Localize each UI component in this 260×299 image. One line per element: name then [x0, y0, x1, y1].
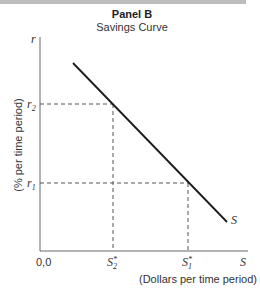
dashed-guides [40, 104, 188, 251]
savings-curve-diagram: Panel B Savings Curve r (% per time peri… [0, 0, 260, 299]
panel-subtitle: Savings Curve [96, 21, 168, 33]
curve-label: S [231, 213, 237, 227]
origin-label: 0,0 [36, 256, 51, 268]
tick-r1: r1 [27, 176, 36, 192]
y-axis-symbol: r [31, 32, 36, 46]
panel-title: Panel B [112, 8, 152, 20]
tick-s1-star: S*1 [182, 255, 192, 271]
savings-curve-line [73, 63, 227, 222]
tick-s2-star: S*2 [107, 255, 117, 271]
y-axis-label: (% per time period) [12, 98, 24, 192]
x-axis-symbol: S [240, 255, 246, 269]
x-axis-label: (Dollars per time period) [139, 273, 257, 285]
tick-r2: r2 [27, 97, 36, 113]
